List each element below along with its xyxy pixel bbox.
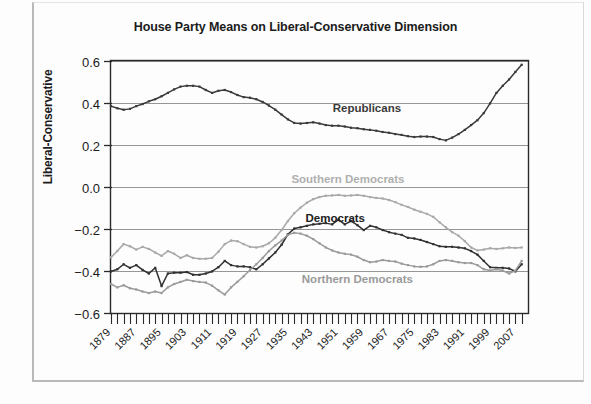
svg-text:1967: 1967 (365, 326, 391, 352)
svg-text:1975: 1975 (390, 326, 416, 352)
svg-text:1999: 1999 (466, 326, 492, 352)
svg-text:1911: 1911 (188, 326, 213, 351)
svg-text:−0.2: −0.2 (74, 223, 100, 238)
svg-text:1951: 1951 (314, 326, 340, 352)
svg-text:−0.6: −0.6 (74, 307, 100, 322)
x-tick-labels: 1879188718951903191119191927193519431951… (87, 326, 517, 352)
series-annotation-2: Democrats (306, 212, 365, 224)
series-annotation-1: Southern Democrats (291, 173, 404, 185)
svg-text:0.0: 0.0 (82, 181, 100, 196)
x-tick-marks (112, 314, 523, 324)
svg-text:0.6: 0.6 (82, 55, 100, 70)
svg-text:1991: 1991 (440, 326, 466, 352)
svg-text:1887: 1887 (112, 326, 138, 352)
series-annotation-3: Northern Democrats (302, 273, 413, 285)
svg-text:1919: 1919 (213, 326, 239, 352)
svg-text:0.4: 0.4 (82, 97, 100, 112)
line-chart: 0.60.40.20.0−0.2−0.4−0.6 187918871895190… (0, 0, 591, 404)
svg-text:1943: 1943 (289, 326, 315, 352)
svg-text:−0.4: −0.4 (74, 265, 100, 280)
series-annotation-0: Republicans (333, 102, 401, 114)
svg-text:1935: 1935 (264, 326, 290, 352)
svg-text:0.2: 0.2 (82, 139, 100, 154)
svg-text:1927: 1927 (238, 326, 264, 352)
svg-text:1959: 1959 (339, 326, 365, 352)
series-annotations: RepublicansSouthern DemocratsDemocratsNo… (291, 102, 413, 284)
figure-page: House Party Means on Liberal-Conservativ… (0, 0, 591, 404)
svg-text:2007: 2007 (491, 326, 517, 352)
svg-text:1879: 1879 (87, 326, 113, 352)
y-tick-labels: 0.60.40.20.0−0.2−0.4−0.6 (74, 55, 100, 322)
svg-text:1903: 1903 (162, 326, 188, 352)
svg-text:1983: 1983 (415, 326, 441, 352)
svg-text:1895: 1895 (137, 326, 163, 352)
